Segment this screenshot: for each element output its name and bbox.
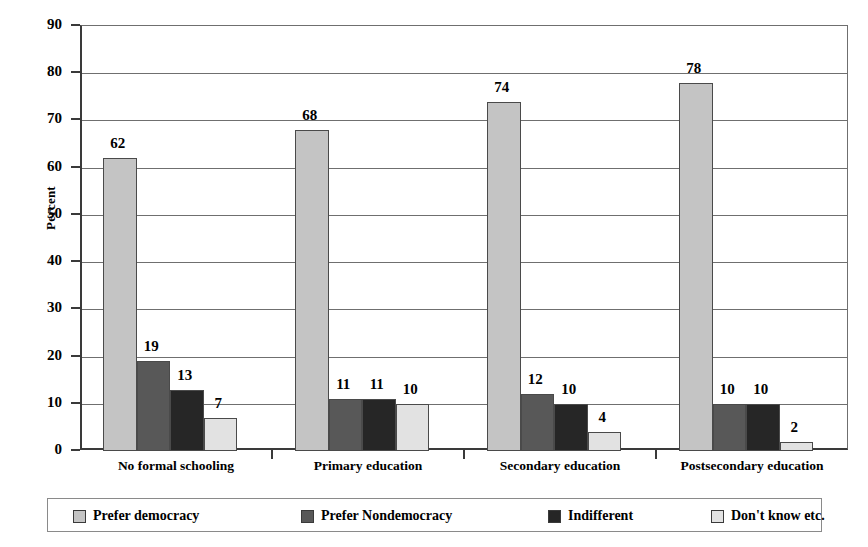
bar-value-label: 68 (283, 108, 337, 123)
legend-label: Indifferent (568, 509, 633, 523)
y-axis-tick (71, 213, 80, 215)
y-axis-label: 70 (16, 111, 62, 126)
y-axis-label: 90 (16, 17, 62, 32)
bar (362, 399, 396, 451)
y-axis-tick (71, 166, 80, 168)
bar-value-label: 2 (768, 420, 822, 435)
legend-item[interactable]: Indifferent (548, 506, 633, 526)
bar (396, 404, 430, 451)
gridline (82, 357, 847, 358)
bar-value-label: 13 (158, 368, 212, 383)
bar (487, 102, 521, 451)
legend-label: Don't know etc. (731, 509, 825, 523)
x-axis-category-label: Postsecondary education (636, 458, 868, 474)
bar-value-label: 78 (667, 61, 721, 76)
legend-swatch-icon (301, 510, 314, 523)
y-axis-label: 30 (16, 300, 62, 315)
bar-value-label: 4 (576, 410, 630, 425)
gridline (82, 215, 847, 216)
y-axis-label: 50 (16, 206, 62, 221)
y-axis-label: 60 (16, 159, 62, 174)
bar (588, 432, 622, 451)
y-axis-label: 20 (16, 348, 62, 363)
y-axis-tick (71, 260, 80, 262)
bar (521, 394, 555, 451)
legend-swatch-icon (711, 510, 724, 523)
bar-chart: Percent 9080706050403020100 No formal sc… (0, 0, 868, 547)
legend-item[interactable]: Don't know etc. (711, 506, 825, 526)
y-axis-tick (71, 118, 80, 120)
gridline (82, 73, 847, 74)
legend-swatch-icon (548, 510, 561, 523)
y-axis-tick (71, 402, 80, 404)
legend-label: Prefer Nondemocracy (321, 509, 452, 523)
y-axis-label: 10 (16, 395, 62, 410)
bar (103, 158, 137, 451)
legend-label: Prefer democracy (93, 509, 199, 523)
gridline (82, 262, 847, 263)
gridline (82, 120, 847, 121)
bar-value-label: 10 (734, 382, 788, 397)
y-axis-tick (71, 71, 80, 73)
gridline (82, 309, 847, 310)
bar-value-label: 19 (125, 339, 179, 354)
y-axis-tick (71, 307, 80, 309)
bar-value-label: 10 (542, 382, 596, 397)
bar-value-label: 74 (475, 80, 529, 95)
y-axis-label: 40 (16, 253, 62, 268)
y-axis-tick (71, 24, 80, 26)
bar (204, 418, 238, 451)
legend-item[interactable]: Prefer Nondemocracy (301, 506, 452, 526)
bar-value-label: 7 (192, 396, 246, 411)
bar-value-label: 62 (91, 136, 145, 151)
legend-swatch-icon (73, 510, 86, 523)
y-axis-tick (71, 449, 80, 451)
bar (329, 399, 363, 451)
bar-value-label: 10 (384, 382, 438, 397)
bar (295, 130, 329, 451)
bar (713, 404, 747, 451)
gridline (82, 168, 847, 169)
legend: Prefer democracyPrefer NondemocracyIndif… (47, 498, 822, 532)
y-axis-label: 80 (16, 64, 62, 79)
legend-item[interactable]: Prefer democracy (73, 506, 199, 526)
y-axis-tick (71, 355, 80, 357)
bar (780, 442, 814, 451)
y-axis-label: 0 (16, 442, 62, 457)
